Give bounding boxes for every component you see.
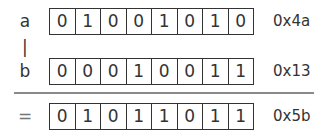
bit-cell: 1 <box>203 9 229 34</box>
bit-box: 0 1 0 1 1 0 1 1 <box>49 103 254 130</box>
bit-cell: 1 <box>229 104 254 129</box>
bit-cell: 0 <box>101 59 127 84</box>
bit-cell: 0 <box>229 9 254 34</box>
or-operator: | <box>22 37 28 57</box>
hex-value: 0x13 <box>273 58 311 85</box>
bit-cell: 0 <box>178 104 204 129</box>
bit-cell: 0 <box>101 104 127 129</box>
bit-cell: 1 <box>127 104 153 129</box>
bit-cell: 0 <box>76 59 102 84</box>
bit-box: 0 0 0 1 0 0 1 1 <box>49 58 254 85</box>
bit-cell: 1 <box>76 9 102 34</box>
bit-cell: 0 <box>152 59 178 84</box>
divider-line <box>14 92 314 94</box>
row-b: b 0 0 0 1 0 0 1 1 0x13 <box>0 58 330 85</box>
bit-cell: 1 <box>203 104 229 129</box>
bit-cell: 1 <box>152 104 178 129</box>
operand-label: b <box>17 58 33 85</box>
bit-cell: 1 <box>76 104 102 129</box>
bit-box: 0 1 0 0 1 0 1 0 <box>49 8 254 35</box>
bit-cell: 0 <box>178 9 204 34</box>
bit-cell: 1 <box>203 59 229 84</box>
row-a: a 0 1 0 0 1 0 1 0 0x4a <box>0 8 330 35</box>
bit-cell: 0 <box>101 9 127 34</box>
equals-label: = <box>17 103 33 130</box>
bit-cell: 1 <box>229 59 254 84</box>
row-result: = 0 1 0 1 1 0 1 1 0x5b <box>0 103 330 130</box>
bit-cell: 0 <box>178 59 204 84</box>
bit-cell: 1 <box>127 59 153 84</box>
bit-cell: 0 <box>50 59 76 84</box>
hex-value: 0x4a <box>273 8 310 35</box>
bit-cell: 0 <box>127 9 153 34</box>
operand-label: a <box>17 8 33 35</box>
hex-value: 0x5b <box>273 103 311 130</box>
bit-cell: 0 <box>50 104 76 129</box>
bit-cell: 1 <box>152 9 178 34</box>
bit-cell: 0 <box>50 9 76 34</box>
